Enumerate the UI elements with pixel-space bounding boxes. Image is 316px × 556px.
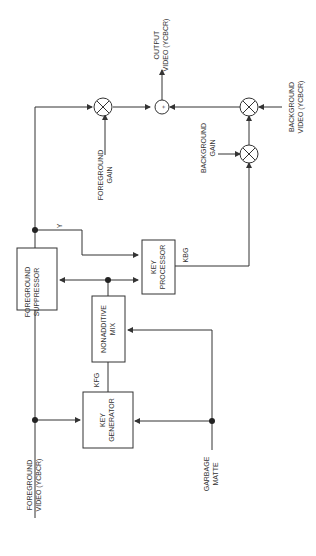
svg-text:KBG: KBG: [182, 248, 189, 263]
svg-text:FOREGROUNDGAIN: FOREGROUNDGAIN: [97, 150, 113, 201]
svg-text:Y: Y: [56, 223, 63, 228]
svg-text:BACKGROUNDVIDEO (YCBCR): BACKGROUNDVIDEO (YCBCR): [288, 81, 305, 134]
svg-text:+: +: [160, 105, 166, 109]
svg-text:OUTPUTVIDEO (YCBCR): OUTPUTVIDEO (YCBCR): [153, 19, 170, 72]
svg-text:FOREGROUNDVIDEO (YCBCR): FOREGROUNDVIDEO (YCBCR): [26, 459, 43, 512]
block-diagram: + FOREGROUNDSUPPRESSOR KEYPROCESSOR NONA…: [0, 0, 316, 556]
svg-text:KFG: KFG: [93, 373, 100, 387]
svg-text:GARBAGEMATTE: GARBAGEMATTE: [203, 456, 219, 491]
svg-text:BACKGROUNDGAIN: BACKGROUNDGAIN: [200, 123, 216, 173]
